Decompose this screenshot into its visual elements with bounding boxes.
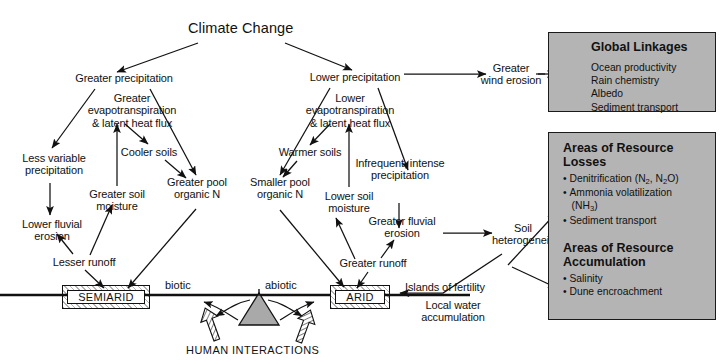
diagram-canvas: Climate Change Greater precipitation Low… [0, 0, 724, 361]
node-lower-evapotranspiration: Lower evapotranspiration & latent heat f… [290, 92, 410, 129]
panel-global-linkages: Global Linkages Ocean productivity Rain … [548, 32, 716, 112]
panel-global-linkages-heading: Global Linkages [591, 40, 688, 54]
list-item: Rain chemistry [591, 74, 678, 87]
diagram-title: Climate Change [188, 20, 293, 36]
label-biotic: biotic [165, 279, 191, 291]
list-item: • Denitrification (N2, N2O) [563, 172, 711, 186]
label-abiotic: abiotic [265, 279, 297, 291]
node-greater-runoff: Greater runoff [332, 257, 414, 269]
human-interaction-block-arrows [197, 305, 319, 345]
state-box-semiarid-label: SEMIARID [67, 290, 145, 304]
panel-resource-losses-list: • Denitrification (N2, N2O) • Ammonia vo… [563, 172, 711, 227]
panel-global-linkages-list: Ocean productivity Rain chemistry Albedo… [591, 61, 678, 114]
state-box-arid-label: ARID [335, 290, 385, 304]
node-lower-soil-moisture: Lower soil moisture [312, 190, 386, 215]
node-greater-fluvial-erosion: Greater fluvial erosion [362, 215, 442, 240]
list-item: • Ammonia volatilization [563, 186, 711, 199]
node-lesser-runoff: Lesser runoff [46, 256, 122, 268]
list-item: Sediment transport [591, 101, 678, 114]
node-greater-soil-moisture: Greater soil moisture [78, 188, 156, 213]
node-lower-precipitation: Lower precipitation [300, 71, 410, 83]
panel-resource-losses-heading: Areas of Resource Losses [563, 141, 711, 170]
node-warmer-soils: Warmer soils [272, 146, 348, 158]
list-item: • Salinity [563, 272, 711, 285]
fulcrum-triangle [239, 289, 279, 325]
state-box-semiarid[interactable]: SEMIARID [62, 285, 150, 309]
node-cooler-soils: Cooler soils [113, 146, 185, 158]
panel-resource-losses: Areas of Resource Losses • Denitrificati… [563, 141, 711, 227]
list-item: • Dune encroachment [563, 285, 711, 298]
panel-resource-accumulation-heading: Areas of Resource Accumulation [563, 241, 711, 270]
node-greater-wind-erosion: Greater wind erosion [478, 62, 544, 87]
label-human-interactions: HUMAN INTERACTIONS [186, 344, 319, 356]
list-item: (NH3) [563, 199, 711, 213]
node-lower-fluvial-erosion: Lower fluvial erosion [12, 218, 92, 243]
node-less-variable-precipitation: Less variable precipitation [14, 152, 94, 177]
node-smaller-pool-organic-n: Smaller pool organic N [240, 176, 320, 201]
state-box-arid[interactable]: ARID [330, 285, 390, 309]
node-soil-heterogeneity: Soil heterogeneity [492, 222, 554, 247]
panel-resource-accumulation-list: • Salinity • Dune encroachment [563, 272, 711, 298]
panel-resource-accumulation: Areas of Resource Accumulation • Salinit… [563, 241, 711, 298]
list-item: Albedo [591, 87, 678, 100]
fulcrum-arrows [204, 300, 314, 320]
node-local-water-accumulation: Local water accumulation [410, 299, 496, 324]
list-item: Ocean productivity [591, 61, 678, 74]
list-item: • Sediment transport [563, 214, 711, 227]
node-islands-of-fertility: Islands of fertility [405, 281, 501, 293]
node-infrequent-intense-precipitation: Infrequent, intense precipitation [352, 157, 448, 182]
panel-resource-areas: Areas of Resource Losses • Denitrificati… [548, 132, 716, 320]
node-greater-pool-organic-n: Greater pool organic N [158, 176, 236, 201]
node-greater-evapotranspiration: Greater evapotranspiration & latent heat… [72, 92, 192, 129]
node-greater-precipitation: Greater precipitation [62, 72, 186, 84]
